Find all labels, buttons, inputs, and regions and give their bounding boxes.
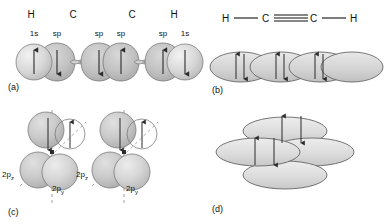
- formula-atom-h-right: H: [350, 13, 357, 24]
- p-lobe-left-upper-a: [28, 112, 64, 148]
- panel-label-a: (a): [8, 82, 19, 92]
- panel-b: H C C H: [200, 0, 385, 100]
- orbital-label-sp-2: sp: [88, 29, 110, 38]
- panel-label-b: (b): [212, 85, 223, 95]
- panel-a: H C C H 1s sp sp sp sp 1s: [0, 0, 200, 100]
- panel-a-orbital-diagram: [0, 40, 200, 100]
- formula-atom-c-left: C: [262, 13, 269, 24]
- panel-d: (d): [200, 108, 385, 224]
- nucleus-right: [122, 150, 126, 154]
- atom-label-h-left: H: [21, 9, 41, 20]
- atom-label-c-left: C: [63, 9, 83, 20]
- p-orbital-group-right: [92, 110, 158, 204]
- atom-label-c-right: C: [122, 9, 142, 20]
- panel-c-p-orbital-diagram: [0, 108, 200, 208]
- p-orbital-label-2py-right: 2py: [126, 184, 138, 195]
- nucleus-left: [50, 150, 54, 154]
- panel-label-c: (c): [8, 207, 19, 217]
- atom-label-h-right: H: [164, 9, 184, 20]
- orbital-label-sp-4: sp: [152, 29, 174, 38]
- panel-c: 2pz 2py 2pz 2py (c): [0, 108, 200, 224]
- sigma-lobe-4: [321, 52, 383, 82]
- p-orbital-label-2pz-left: 2pz: [2, 170, 14, 181]
- p-orbital-label-2py-left: 2py: [52, 184, 64, 195]
- orbital-label-1s-right: 1s: [174, 29, 196, 38]
- orbital-label-sp-1: sp: [46, 29, 68, 38]
- orbital-label-sp-3: sp: [110, 29, 132, 38]
- orbital-label-1s-left: 1s: [23, 29, 45, 38]
- structural-formula-acetylene: H C C H: [200, 6, 385, 32]
- formula-atom-c-right: C: [310, 13, 317, 24]
- pi-lobe-left: [216, 138, 300, 166]
- p-orbital-label-2pz-right: 2pz: [76, 170, 88, 181]
- panel-b-sigma-framework: [200, 42, 385, 92]
- panel-label-d: (d): [212, 204, 223, 214]
- p-lobe-right-upper-a: [100, 112, 136, 148]
- formula-atom-h-left: H: [222, 13, 229, 24]
- panel-d-pi-bond-diagram: [200, 108, 385, 203]
